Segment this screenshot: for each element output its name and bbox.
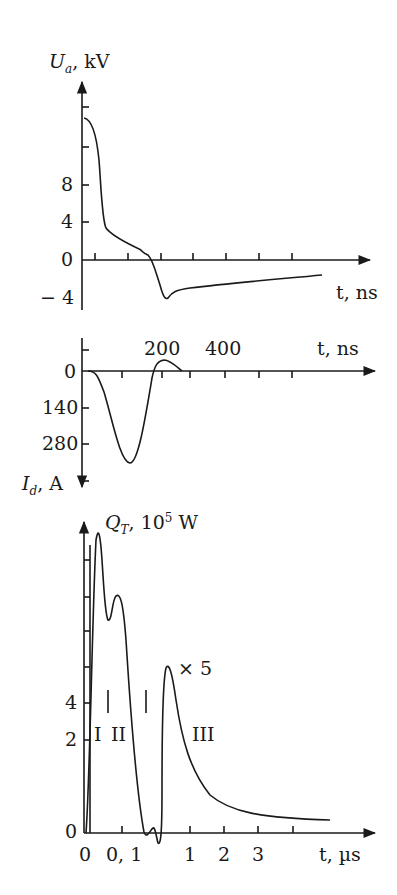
bottom-xtick-3: 3 [252, 845, 264, 864]
region-label-I: I [94, 725, 102, 744]
bottom-x-axis-label: t, µs [319, 845, 361, 864]
top-y-axis-label: Ua, kV [49, 52, 110, 75]
middle-y-axis-label: Id, A [22, 474, 63, 497]
top-ytick-4: 4 [61, 212, 73, 231]
top-ytick-minus4: − 4 [40, 288, 74, 307]
bottom-ytick-4: 4 [65, 693, 77, 712]
top-x-axis-label: t, ns [336, 283, 378, 302]
middle-ytick-280: 280 [42, 434, 78, 453]
middle-ytick-140: 140 [42, 398, 78, 417]
bottom-curve-QT [86, 533, 330, 843]
bottom-ytick-0: 0 [65, 822, 77, 841]
ylabel-watt: W [173, 511, 199, 533]
region-label-II: II [111, 725, 126, 744]
top-curve-Ua [84, 118, 322, 298]
bottom-xtick-1: 1 [184, 845, 196, 864]
ylabel-symbol: U [49, 50, 65, 72]
middle-x-axis-label: t, ns [317, 339, 359, 358]
middle-xtick-200: 200 [144, 339, 180, 358]
scale-annotation-times5: × 5 [178, 659, 212, 678]
ylabel-exponent: 5 [165, 511, 173, 525]
region-label-III: III [192, 725, 215, 744]
ylabel-subscript: T [121, 523, 129, 537]
top-ytick-8: 8 [61, 175, 73, 194]
bottom-y-axis-label: QT, 105 W [105, 512, 198, 536]
ylabel-symbol: Q [105, 511, 121, 533]
bottom-xtick-2: 2 [218, 845, 230, 864]
bottom-xtick-0: 0 [79, 845, 91, 864]
middle-ytick-0: 0 [64, 362, 76, 381]
bottom-xtick-0-1: 0, 1 [106, 845, 142, 864]
bottom-chart [84, 522, 375, 843]
figure: Ua, kV 8 4 0 − 4 t, ns 200 400 t, ns 0 1… [0, 0, 397, 895]
bottom-ytick-2: 2 [65, 730, 77, 749]
middle-chart [82, 338, 375, 487]
ylabel-unit: , 10 [129, 511, 165, 533]
ylabel-symbol: I [22, 472, 30, 494]
ylabel-unit: , kV [72, 50, 109, 72]
ylabel-unit: , A [37, 472, 63, 494]
middle-xtick-400: 400 [205, 339, 241, 358]
top-chart [82, 82, 370, 310]
top-ytick-0: 0 [61, 250, 73, 269]
middle-curve-Id [88, 360, 182, 463]
